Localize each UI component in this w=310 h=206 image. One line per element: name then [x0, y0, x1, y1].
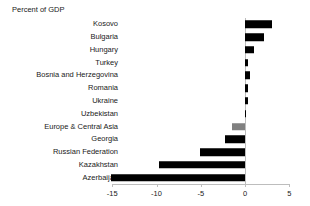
x-axis-tick-label: -15	[107, 189, 118, 198]
category-label: Uzbekistan	[81, 109, 118, 118]
bar-row: Ukraine	[0, 95, 310, 108]
category-label: Russian Federation	[53, 148, 118, 157]
bar-row: Kazakhstan	[0, 158, 310, 171]
category-label: Hungary	[90, 46, 118, 55]
x-axis-tick-mark	[157, 184, 158, 187]
bar	[245, 46, 254, 54]
bar	[159, 161, 245, 169]
x-axis-tick-mark	[245, 184, 246, 187]
x-axis-tick-label: 5	[287, 189, 291, 198]
bar-row: Georgia	[0, 133, 310, 146]
bar	[245, 59, 248, 67]
bar-row: Romania	[0, 82, 310, 95]
category-label: Ukraine	[92, 97, 118, 106]
bar	[245, 97, 248, 105]
bar-row: Bulgaria	[0, 31, 310, 44]
x-axis-tick-mark	[201, 184, 202, 187]
category-label: Kosovo	[93, 20, 118, 29]
bar-row: Europe & Central Asia	[0, 120, 310, 133]
category-label: Bosnia and Herzegovina	[36, 71, 118, 80]
category-label: Romania	[88, 84, 118, 93]
bar	[245, 33, 264, 41]
x-axis-tick-mark	[112, 184, 113, 187]
bar-row: Hungary	[0, 44, 310, 57]
bar	[245, 84, 248, 92]
bar-row: Azerbaijan	[0, 171, 310, 184]
x-axis-tick-label: -5	[197, 189, 204, 198]
x-axis-tick-label: -10	[151, 189, 162, 198]
category-label: Bulgaria	[90, 33, 118, 42]
category-label: Europe & Central Asia	[44, 122, 118, 131]
category-label: Kazakhstan	[79, 161, 118, 170]
bar	[225, 136, 245, 144]
bar-row: Russian Federation	[0, 146, 310, 159]
bar	[232, 123, 245, 131]
bar-row: Bosnia and Herzegovina	[0, 69, 310, 82]
x-axis-tick-mark	[289, 184, 290, 187]
plot-area: KosovoBulgariaHungaryTurkeyBosnia and He…	[0, 18, 310, 184]
category-label: Turkey	[95, 58, 118, 67]
bar	[200, 148, 245, 156]
x-axis-tick-label: 0	[243, 189, 247, 198]
chart-container: Percent of GDP KosovoBulgariaHungaryTurk…	[0, 0, 310, 206]
category-label: Georgia	[91, 135, 118, 144]
bar	[111, 174, 245, 182]
bar-row: Kosovo	[0, 18, 310, 31]
chart-title: Percent of GDP	[12, 5, 65, 14]
bar	[245, 21, 272, 29]
bar-row: Uzbekistan	[0, 107, 310, 120]
bar-row: Turkey	[0, 56, 310, 69]
bar	[245, 72, 250, 80]
